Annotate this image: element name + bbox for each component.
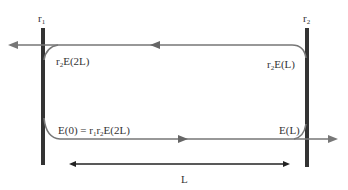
length-label-text: L xyxy=(181,173,188,185)
length-label: L xyxy=(181,174,188,185)
label-top-left: r2E(2L) xyxy=(56,56,89,69)
label-top-right: r2E(L) xyxy=(267,59,295,72)
mirror-r2-label: r2 xyxy=(303,13,310,26)
mirror-r1-label: r1 xyxy=(38,13,45,26)
mirror-r1-label-sub: 1 xyxy=(42,18,46,26)
arrow-bottom-mid-icon xyxy=(178,135,188,143)
label-bottom-left: E(0) = r1r2E(2L) xyxy=(58,125,130,138)
cavity-diagram xyxy=(0,0,348,190)
arrow-left-out-icon xyxy=(8,41,18,49)
mirror-r2 xyxy=(305,28,309,167)
length-arrow-right-head-icon xyxy=(283,161,290,167)
mirror-r1 xyxy=(41,28,45,165)
label-top-left-post: E(2L) xyxy=(63,55,89,67)
label-bottom-left-text: E(0) = r xyxy=(58,124,93,136)
label-bottom-right-text: E(L) xyxy=(279,124,300,136)
arrow-right-out-icon xyxy=(328,135,338,143)
length-arrow-left-head-icon xyxy=(69,161,76,167)
arrow-top-mid-icon xyxy=(150,41,160,49)
label-top-right-post: E(L) xyxy=(274,58,295,70)
label-bottom-left-post: E(2L) xyxy=(104,124,130,136)
mirror-r2-label-sub: 2 xyxy=(307,18,311,26)
label-bottom-right: E(L) xyxy=(279,125,300,136)
